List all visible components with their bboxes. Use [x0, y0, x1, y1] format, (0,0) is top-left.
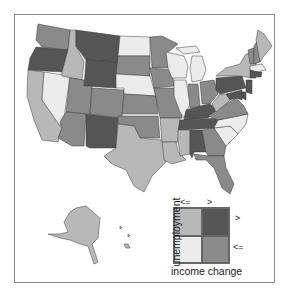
state-alaska: [48, 206, 100, 264]
state-washington: [36, 24, 70, 50]
state-mississippi: [178, 130, 190, 156]
state-hawaii: [120, 226, 130, 248]
state-oregon: [28, 47, 68, 72]
state-indiana: [188, 84, 200, 108]
legend-x-high-label: >: [207, 198, 212, 207]
state-montana: [76, 30, 120, 62]
state-north-dakota: [118, 36, 150, 56]
state-new-jersey: [246, 80, 252, 94]
state-kansas: [122, 94, 158, 114]
state-florida: [194, 154, 234, 194]
state-new-mexico: [86, 114, 118, 148]
legend-y-axis-title: unemployment: [170, 194, 182, 270]
state-arkansas: [160, 118, 180, 142]
state-colorado: [90, 88, 124, 118]
state-delaware: [242, 92, 246, 100]
legend-y-high-label: >: [235, 214, 240, 223]
legend-x-axis-title: income change: [171, 265, 242, 277]
state-south-dakota: [116, 56, 150, 76]
legend-y-low-label: <=: [233, 243, 244, 252]
state-wyoming: [84, 60, 118, 88]
us-choropleth-map: [0, 0, 290, 298]
legend-cell-high-income-high-unemployment: [202, 208, 230, 236]
legend-cell-high-income-low-unemployment: [202, 236, 230, 264]
state-rhode-island: [257, 72, 262, 77]
